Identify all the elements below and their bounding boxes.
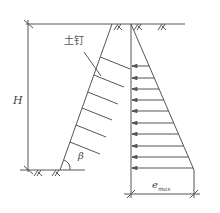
arrow-head-icon [132,98,137,101]
ground-hatch-bottom [34,170,60,176]
soil-nail [94,75,124,87]
soil-nail [76,125,106,137]
pressure-distribution-line [131,24,194,170]
arrow-head-icon [132,166,137,169]
soil-nail-diagram: 土钉 H β emax [0,0,220,213]
arrow-head-icon [132,76,137,79]
arrow-head-icon [132,132,137,135]
ground-hatch-top [114,24,166,30]
arrow-head-icon [132,109,137,112]
diagram-drawing [0,0,220,213]
arrow-head-icon [132,121,137,124]
arrow-head-icon [132,144,137,147]
soil-nail [100,57,130,69]
slope-angle-label: β [78,151,84,161]
soil-nail [88,92,118,104]
arrow-head-icon [132,155,137,158]
arrow-head-icon [132,64,137,67]
soil-nail-leader-line [84,52,101,76]
arrow-head-icon [132,87,137,90]
emax-label: emax [152,180,171,192]
soil-nail [70,142,100,154]
emax-subscript: max [158,185,171,192]
pressure-arrows [132,64,193,169]
soil-nails [70,57,130,154]
soil-nail-label: 土钉 [64,36,84,46]
slope-angle-arc [64,160,70,170]
height-label: H [13,95,23,106]
soil-nail [82,108,112,120]
